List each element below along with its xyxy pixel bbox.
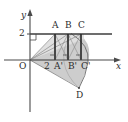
right-angle-mark-y-axis (30, 34, 36, 40)
point-label-c-prime: C' (81, 62, 90, 71)
y-axis-arrowhead (27, 9, 32, 16)
y-axis-label: y (21, 11, 26, 20)
point-label-d: D (76, 91, 83, 100)
point-label-b: B (65, 21, 72, 30)
point-label-c: C (78, 21, 85, 30)
point-d-marker (78, 87, 80, 89)
point-label-a: A (52, 21, 59, 30)
point-label-a-prime: A' (54, 62, 63, 71)
x-tick-label-2: 2 (44, 62, 50, 71)
y-tick-label-2: 2 (19, 29, 25, 38)
geometry-figure: y x O 2 A B C 2 A' B' C' D (0, 0, 128, 122)
origin-label: O (19, 62, 26, 71)
point-label-b-prime: B' (68, 62, 77, 71)
x-axis-label: x (116, 62, 121, 71)
